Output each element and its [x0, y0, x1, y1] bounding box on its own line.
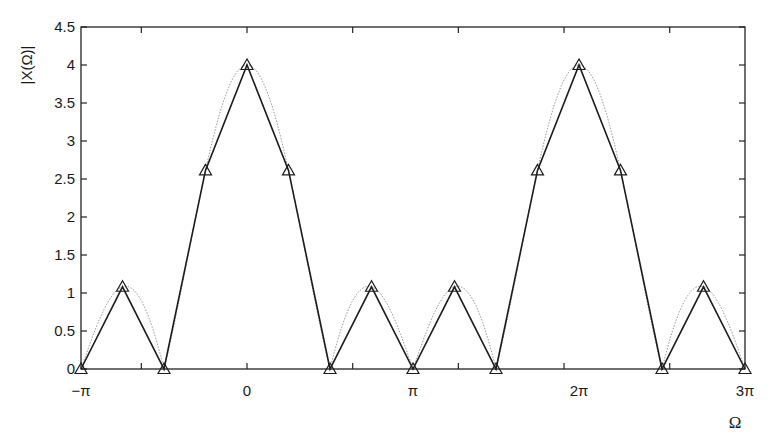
y-axis-label: |X(Ω)|: [18, 45, 35, 84]
x-tick-label: −π: [71, 382, 90, 399]
x-tick-label: 3π: [736, 382, 755, 399]
x-tick-label: 0: [243, 382, 251, 399]
y-tick-label: 3.5: [54, 94, 75, 111]
y-tick-label: 0: [67, 360, 75, 377]
y-tick-label: 1.5: [54, 246, 75, 263]
y-tick-label: 2.5: [54, 170, 75, 187]
x-axis-label: Ω: [729, 413, 742, 432]
y-tick-label: 4.5: [54, 18, 75, 35]
y-tick-label: 4: [67, 56, 75, 73]
y-tick-label: 0.5: [54, 322, 75, 339]
y-tick-label: 2: [67, 208, 75, 225]
x-tick-label: 2π: [570, 382, 589, 399]
x-tick-label: π: [408, 382, 418, 399]
chart-canvas: 00.511.522.533.544.5 −π0π2π3π Ω |X(Ω)|: [0, 0, 772, 438]
y-tick-label: 3: [67, 132, 75, 149]
y-tick-label: 1: [67, 284, 75, 301]
